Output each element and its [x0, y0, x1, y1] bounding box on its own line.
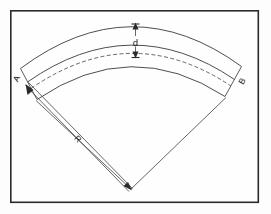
technical-drawing-svg: R d A B: [0, 0, 271, 214]
figure-container: R d A B: [0, 0, 271, 214]
thickness-label: d: [133, 37, 138, 48]
